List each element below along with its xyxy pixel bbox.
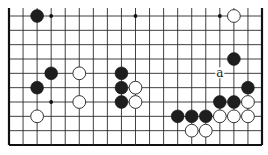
label-text: a — [216, 66, 223, 80]
black-stone — [213, 96, 226, 109]
point-label: a — [215, 66, 224, 80]
star-point — [49, 14, 53, 18]
white-stone — [199, 124, 212, 137]
black-stone — [199, 110, 212, 123]
white-stone — [242, 110, 255, 123]
black-stone — [242, 81, 255, 94]
black-stone — [115, 96, 128, 109]
star-point — [218, 14, 222, 18]
white-stone — [129, 96, 142, 109]
go-board-diagram: a — [0, 0, 268, 155]
black-stone — [115, 81, 128, 94]
star-point — [134, 14, 138, 18]
labels-layer: a — [215, 66, 224, 80]
black-stone — [227, 96, 240, 109]
white-stone — [242, 96, 255, 109]
white-stone — [227, 110, 240, 123]
white-stone — [73, 67, 86, 80]
white-stone — [73, 96, 86, 109]
black-stone — [45, 67, 58, 80]
black-stone — [31, 81, 44, 94]
black-stone — [227, 53, 240, 66]
black-stone — [171, 110, 184, 123]
star-point — [49, 100, 53, 104]
black-stone — [115, 67, 128, 80]
black-stone — [185, 110, 198, 123]
white-stone — [185, 124, 198, 137]
white-stone — [31, 110, 44, 123]
white-stone — [129, 81, 142, 94]
white-stone — [227, 10, 240, 23]
black-stone — [31, 10, 44, 23]
white-stone — [213, 110, 226, 123]
